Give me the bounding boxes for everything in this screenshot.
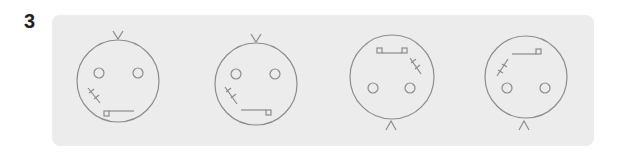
right-eye-icon (270, 69, 280, 79)
mouth-icon (512, 49, 541, 54)
left-eye-icon (368, 83, 378, 93)
scar-icon (225, 87, 237, 104)
mouth-icon (241, 110, 271, 115)
hair-icon (251, 34, 261, 42)
head-circle (350, 35, 434, 119)
hair-icon (113, 31, 123, 39)
scar-icon (497, 59, 508, 76)
left-eye-icon (502, 83, 512, 93)
right-eye-icon (133, 68, 143, 78)
left-eye-icon (94, 68, 104, 78)
right-eye-icon (405, 83, 415, 93)
hair-icon (519, 121, 529, 130)
head-circle (215, 43, 297, 125)
face-4[interactable] (485, 36, 567, 130)
scar-icon (410, 58, 421, 74)
left-eye-icon (231, 69, 241, 79)
faces-figure (0, 0, 621, 154)
scar-icon (88, 88, 100, 103)
right-eye-icon (540, 83, 550, 93)
face-1[interactable] (77, 31, 159, 122)
head-circle (485, 36, 567, 118)
face-2[interactable] (215, 34, 297, 125)
mouth-icon (377, 48, 407, 53)
hair-icon (386, 121, 396, 130)
head-circle (77, 40, 159, 122)
face-3[interactable] (350, 35, 434, 130)
mouth-icon (104, 111, 134, 116)
